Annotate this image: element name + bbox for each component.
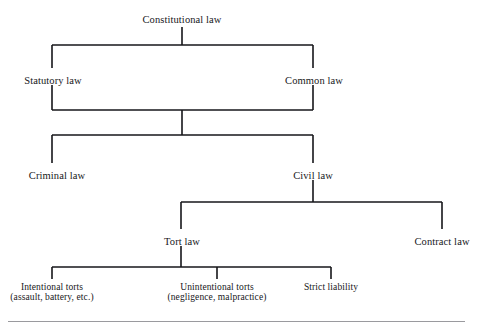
node-strict-liability: Strict liability	[304, 283, 358, 293]
bottom-divider-rule	[8, 321, 465, 322]
node-label-strict-liability: Strict liability	[304, 283, 358, 293]
node-unintentional-torts: Unintentional torts(negligence, malpract…	[167, 283, 266, 303]
node-label-tort-law: Tort law	[164, 236, 200, 247]
node-sublabel-intentional-torts: (assault, battery, etc.)	[10, 293, 93, 303]
node-label-contract-law: Contract law	[414, 236, 469, 247]
node-common-law: Common law	[285, 75, 343, 86]
node-contract-law: Contract law	[414, 236, 469, 247]
node-label-unintentional-torts: Unintentional torts	[167, 283, 266, 293]
node-label-criminal-law: Criminal law	[29, 170, 85, 181]
node-sublabel-unintentional-torts: (negligence, malpractice)	[167, 293, 266, 303]
node-statutory-law: Statutory law	[24, 75, 82, 86]
node-label-intentional-torts: Intentional torts	[10, 283, 93, 293]
node-criminal-law: Criminal law	[29, 170, 85, 181]
node-label-constitutional-law: Constitutional law	[142, 14, 221, 25]
node-label-statutory-law: Statutory law	[24, 75, 82, 86]
node-label-civil-law: Civil law	[293, 170, 333, 181]
node-constitutional-law: Constitutional law	[142, 14, 221, 25]
node-tort-law: Tort law	[164, 236, 200, 247]
node-label-common-law: Common law	[285, 75, 343, 86]
node-civil-law: Civil law	[293, 170, 333, 181]
node-intentional-torts: Intentional torts(assault, battery, etc.…	[10, 283, 93, 303]
law-hierarchy-diagram: Constitutional lawStatutory lawCommon la…	[0, 0, 488, 336]
